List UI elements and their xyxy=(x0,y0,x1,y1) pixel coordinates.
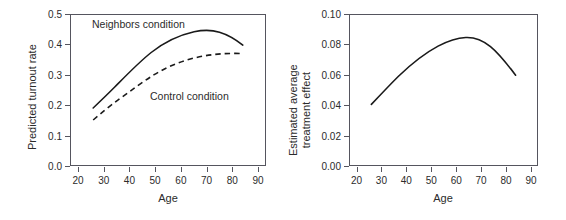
left-ytick-label-0.5: 0.5 xyxy=(36,9,62,20)
left-yaxis-title: Predicted turnout rate xyxy=(26,44,38,150)
left-xtick-30 xyxy=(104,167,105,172)
left-ytick-label-0.2: 0.2 xyxy=(36,100,62,111)
treatment-effect-panel: 0.10 0.08 0.06 0.04 0.02 0.00 20 30 40 5… xyxy=(283,0,566,220)
right-xtick-label-80: 80 xyxy=(500,175,511,186)
left-ytick-0.3 xyxy=(65,75,70,76)
right-curve xyxy=(350,15,537,165)
right-plot-area xyxy=(349,14,538,166)
right-xtick-30 xyxy=(381,167,382,172)
left-ytick-label-0.0: 0.0 xyxy=(36,161,62,172)
right-xtick-label-70: 70 xyxy=(476,175,487,186)
left-xtick-label-20: 20 xyxy=(72,175,83,186)
right-ytick-0.10 xyxy=(344,14,349,15)
left-ytick-label-0.3: 0.3 xyxy=(36,69,62,80)
figure-two-panel-chart: Neighbors condition Control condition 0.… xyxy=(0,0,566,220)
left-xtick-label-70: 70 xyxy=(201,175,212,186)
right-ytick-0.06 xyxy=(344,75,349,76)
right-ytick-label-0.04: 0.04 xyxy=(309,100,341,111)
right-xtick-label-20: 20 xyxy=(351,175,362,186)
treatment-effect-curve xyxy=(371,37,515,104)
right-ytick-0.04 xyxy=(344,105,349,106)
right-xtick-50 xyxy=(431,167,432,172)
neighbors-condition-label: Neighbors condition xyxy=(92,18,185,30)
left-xtick-60 xyxy=(181,167,182,172)
left-xtick-70 xyxy=(207,167,208,172)
left-xtick-20 xyxy=(78,167,79,172)
left-ytick-label-0.1: 0.1 xyxy=(36,130,62,141)
right-yaxis-title: Estimated average treatment effect xyxy=(287,64,312,156)
left-xtick-90 xyxy=(258,167,259,172)
left-xaxis-title: Age xyxy=(158,192,178,204)
left-xtick-label-40: 40 xyxy=(124,175,135,186)
right-ytick-label-0.06: 0.06 xyxy=(309,69,341,80)
right-ytick-0.00 xyxy=(344,166,349,167)
left-xtick-label-30: 30 xyxy=(98,175,109,186)
right-ytick-label-0.02: 0.02 xyxy=(309,130,341,141)
right-yaxis-title-line2: treatment effect xyxy=(300,72,312,148)
right-xtick-60 xyxy=(456,167,457,172)
left-xtick-50 xyxy=(155,167,156,172)
right-xtick-90 xyxy=(531,167,532,172)
right-xtick-label-60: 60 xyxy=(451,175,462,186)
left-xtick-label-90: 90 xyxy=(252,175,263,186)
right-xaxis-title: Age xyxy=(433,192,453,204)
left-xtick-40 xyxy=(129,167,130,172)
left-ytick-0.1 xyxy=(65,136,70,137)
right-xtick-label-40: 40 xyxy=(401,175,412,186)
left-ytick-0.0 xyxy=(65,166,70,167)
left-ytick-0.5 xyxy=(65,14,70,15)
right-xtick-80 xyxy=(506,167,507,172)
control-condition-label: Control condition xyxy=(150,90,229,102)
left-ytick-0.4 xyxy=(65,44,70,45)
right-xtick-label-50: 50 xyxy=(426,175,437,186)
left-xtick-label-80: 80 xyxy=(227,175,238,186)
right-ytick-0.02 xyxy=(344,136,349,137)
right-yaxis-title-line1: Estimated average xyxy=(287,64,299,156)
right-ytick-label-0.00: 0.00 xyxy=(309,161,341,172)
left-ytick-0.2 xyxy=(65,105,70,106)
right-xtick-40 xyxy=(406,167,407,172)
right-ytick-label-0.10: 0.10 xyxy=(309,9,341,20)
left-xtick-label-60: 60 xyxy=(175,175,186,186)
right-ytick-0.08 xyxy=(344,44,349,45)
right-xtick-label-30: 30 xyxy=(376,175,387,186)
right-xtick-70 xyxy=(481,167,482,172)
right-ytick-label-0.08: 0.08 xyxy=(309,39,341,50)
right-xtick-20 xyxy=(357,167,358,172)
predicted-turnout-panel: Neighbors condition Control condition 0.… xyxy=(0,0,283,220)
left-xtick-80 xyxy=(232,167,233,172)
right-xtick-label-90: 90 xyxy=(525,175,536,186)
left-xtick-label-50: 50 xyxy=(150,175,161,186)
left-ytick-label-0.4: 0.4 xyxy=(36,39,62,50)
